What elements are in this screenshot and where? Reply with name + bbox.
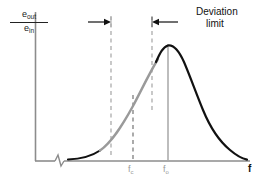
axis-break-zigzag-icon [55, 155, 64, 166]
deviation-limit-left-arrow-head [104, 19, 111, 25]
x-axis-label: f [248, 163, 251, 174]
deviation-limit-line2: limit [196, 18, 272, 30]
curve-segment-lower-left-tail [68, 151, 100, 160]
curve-segment-peak-and-fall [156, 45, 247, 159]
y-axis-label: eout ein [8, 10, 50, 35]
y-axis-label-denominator: ein [8, 23, 50, 35]
tick-label-fc: fc [128, 164, 134, 175]
tick-label-fo-subscript: o [166, 169, 169, 175]
tick-label-fo: fo [163, 164, 169, 175]
deviation-limit-annotation: Deviation limit [196, 6, 272, 30]
y-axis-label-numerator: eout [8, 10, 50, 22]
y-axis-label-denominator-subscript: in [29, 27, 34, 34]
deviation-limit-right-arrow-head [152, 19, 159, 25]
response-curve-figure: eout ein Deviation limit fc fo f [0, 0, 275, 186]
curve-segment-deviation-band-rise [100, 59, 158, 151]
tick-label-fc-subscript: c [131, 169, 134, 175]
y-axis-label-numerator-subscript: out [27, 13, 36, 20]
deviation-limit-line1: Deviation [196, 6, 272, 18]
